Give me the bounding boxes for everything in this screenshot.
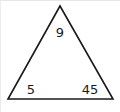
bottom-left-number: 5	[27, 82, 35, 97]
top-number: 9	[56, 25, 64, 40]
bottom-right-number: 45	[82, 82, 99, 97]
triangle-diagram: 9 5 45	[0, 0, 120, 112]
